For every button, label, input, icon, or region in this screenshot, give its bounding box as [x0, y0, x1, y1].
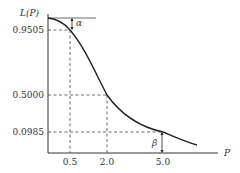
x-tick-label: 2.0	[100, 157, 115, 167]
x-tick-label: 5.0	[156, 157, 171, 167]
oc-curve-chart: α β L(P) 0.9505 0.5000 0.0985 0.5 2.0 5.…	[0, 0, 240, 173]
x-tick-label: 0.5	[63, 157, 78, 167]
alpha-label: α	[76, 18, 82, 28]
y-tick-label: 0.5000	[13, 90, 45, 100]
y-axis-label: L(P)	[19, 8, 40, 18]
beta-label: β	[151, 138, 157, 148]
y-tick-label: 0.9505	[13, 25, 45, 35]
x-axis-label: P	[223, 148, 231, 158]
y-tick-label: 0.0985	[13, 127, 45, 137]
